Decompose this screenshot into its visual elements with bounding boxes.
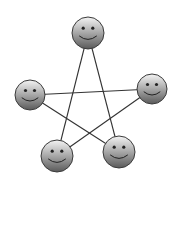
left-eye-icon (146, 83, 149, 86)
left-eye-icon (113, 146, 116, 149)
left-eye-icon (24, 89, 27, 92)
right-eye-icon (60, 150, 63, 153)
smiley-face-icon (15, 80, 45, 110)
smiley-face-icon (72, 17, 104, 49)
smiley-face-icon (103, 136, 135, 168)
edge-top-to-bottom-right (88, 33, 119, 152)
right-eye-icon (33, 89, 36, 92)
left-eye-icon (82, 27, 85, 30)
smiley-face-icon (137, 74, 167, 104)
node-top (72, 17, 104, 49)
right-eye-icon (91, 27, 94, 30)
right-eye-icon (122, 146, 125, 149)
edges-layer (30, 33, 152, 156)
node-bottom-right (103, 136, 135, 168)
edge-left-to-right (30, 89, 152, 95)
right-eye-icon (155, 83, 158, 86)
nodes-layer (15, 17, 167, 172)
left-eye-icon (51, 150, 54, 153)
star-diagram (0, 0, 184, 236)
smiley-face-icon (41, 140, 73, 172)
node-right (137, 74, 167, 104)
node-left (15, 80, 45, 110)
node-bottom-left (41, 140, 73, 172)
